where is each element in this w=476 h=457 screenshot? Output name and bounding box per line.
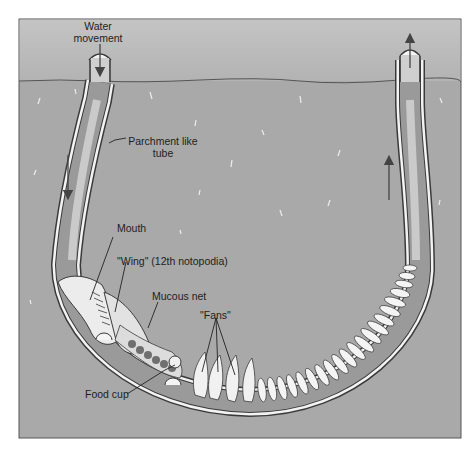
label-water-movement: Water movement (62, 20, 134, 44)
label-mouth: Mouth (117, 222, 146, 234)
label-mucous-net: Mucous net (152, 290, 206, 302)
food-cup-shape (169, 356, 181, 368)
label-wing: "Wing" (12th notopodia) (117, 255, 228, 267)
label-parchment-line1: Parchment like (118, 135, 208, 147)
label-water-movement-line2: movement (62, 32, 134, 44)
label-parchment-line2: tube (118, 147, 208, 159)
label-food-cup: Food cup (85, 388, 129, 400)
label-parchment-tube: Parchment like tube (118, 135, 208, 159)
worm-burrow-diagram (0, 0, 476, 457)
label-fans: "Fans" (200, 309, 231, 321)
label-water-movement-line1: Water (62, 20, 134, 32)
